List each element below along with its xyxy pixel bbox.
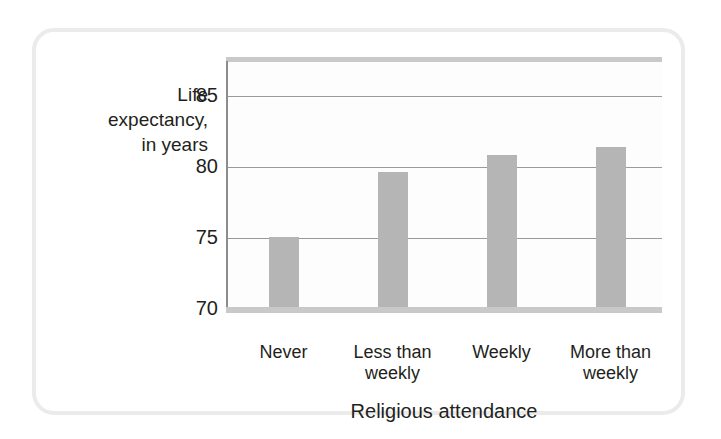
x-tick-label-line: weekly	[551, 363, 671, 384]
x-axis-title: Religious attendance	[226, 399, 662, 423]
bar-never	[269, 237, 299, 309]
plot-area	[226, 61, 662, 309]
x-tick-label-line: More than	[551, 342, 671, 363]
x-tick-label-more-than-weekly: More thanweekly	[551, 342, 671, 384]
x-tick-label-line: Less than	[333, 342, 453, 363]
x-tick-label-weekly: Weekly	[442, 342, 562, 363]
bar-more-than-weekly	[596, 147, 626, 309]
x-tick-label-line: Never	[224, 342, 344, 363]
y-tick-label-70: 70	[174, 298, 218, 318]
plot-baseline	[226, 307, 662, 313]
bar-less-than-weekly	[378, 172, 408, 309]
y-axis-title-line-3: in years	[50, 132, 208, 157]
x-tick-label-line: weekly	[333, 363, 453, 384]
x-tick-label-line: Weekly	[442, 342, 562, 363]
y-axis-title-line-2: expectancy,	[50, 107, 208, 132]
x-tick-label-never: Never	[224, 342, 344, 363]
y-tick-label-75: 75	[174, 227, 218, 247]
x-tick-label-less-than-weekly: Less thanweekly	[333, 342, 453, 384]
plot-top-band	[226, 57, 662, 62]
bar-weekly	[487, 155, 517, 309]
y-tick-label-80: 80	[174, 156, 218, 176]
y-axis-spine	[226, 61, 228, 309]
gridline-85	[228, 96, 662, 97]
figure-frame: Life expectancy, in years 70 75 80 85 Ne…	[32, 28, 685, 415]
y-tick-label-85: 85	[174, 85, 218, 105]
